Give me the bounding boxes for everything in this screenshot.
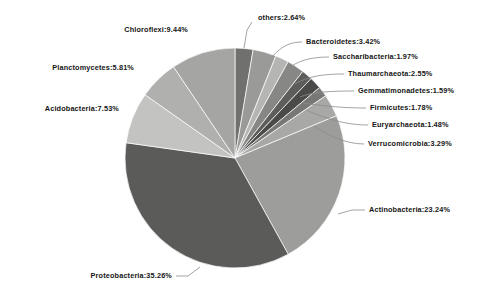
leader-line-others <box>244 22 252 48</box>
pie-label-others: others:2.64% <box>258 14 305 21</box>
pie-label-actinobacteria: Actinobacteria:23.24% <box>369 206 450 213</box>
leader-line-bacteroidetes <box>272 42 302 57</box>
leader-line-actinobacteria <box>338 210 365 214</box>
pie-label-firmicutes: Firmicutes:1.78% <box>370 104 432 111</box>
pie-chart-canvas <box>0 0 484 303</box>
leader-line-proteobacteria <box>176 267 200 276</box>
pie-label-gemmatimonadetes: Gemmatimonadetes:1.59% <box>358 87 454 94</box>
pie-label-thaumarchaeota: Thaumarchaeota:2.55% <box>348 70 433 77</box>
pie-label-verrucomicrobia: Verrucomicrobia:3.29% <box>368 140 452 147</box>
pie-label-euryarchaeota: Euryarchaeota:1.48% <box>372 121 449 128</box>
pie-label-bacteroidetes: Bacteroidetes:3.42% <box>306 38 380 45</box>
pie-label-saccharibacteria: Saccharibacteria:1.97% <box>333 53 418 60</box>
pie-label-chloroflexi: Chloroflexi:9.44% <box>124 26 188 33</box>
pie-slices-group <box>125 48 345 268</box>
pie-label-proteobacteria: Proteobacteria:35.26% <box>91 272 172 279</box>
pie-chart-figure: others:2.64%Bacteroidetes:3.42%Saccharib… <box>0 0 484 303</box>
pie-label-planctomycetes: Planctomycetes:5.81% <box>52 64 134 71</box>
pie-label-acidobacteria: Acidobacteria:7.53% <box>45 105 119 112</box>
